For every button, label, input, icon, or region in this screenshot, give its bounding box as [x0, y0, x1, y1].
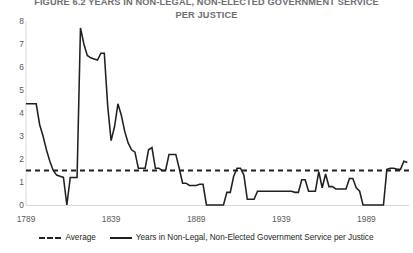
- dashed-line-icon: [39, 237, 61, 239]
- legend-item-service: Years in Non-Legal, Non-Elected Governme…: [110, 233, 374, 242]
- x-tick-1839: 1839: [88, 214, 134, 224]
- legend-label-average: Average: [65, 233, 95, 242]
- x-tick-1889: 1889: [173, 214, 219, 224]
- solid-line-icon: [110, 237, 132, 239]
- figure-container: FIGURE 6.2 YEARS IN NON-LEGAL, NON-ELECT…: [0, 0, 413, 253]
- x-axis-labels: 1789 1839 1889 1939 1989: [0, 0, 413, 253]
- legend-label-service: Years in Non-Legal, Non-Elected Governme…: [136, 233, 374, 242]
- x-tick-1789: 1789: [3, 214, 49, 224]
- legend-item-average: Average: [39, 233, 95, 242]
- chart-legend: Average Years in Non-Legal, Non-Elected …: [0, 233, 413, 242]
- x-tick-1939: 1939: [258, 214, 304, 224]
- x-tick-1989: 1989: [343, 214, 389, 224]
